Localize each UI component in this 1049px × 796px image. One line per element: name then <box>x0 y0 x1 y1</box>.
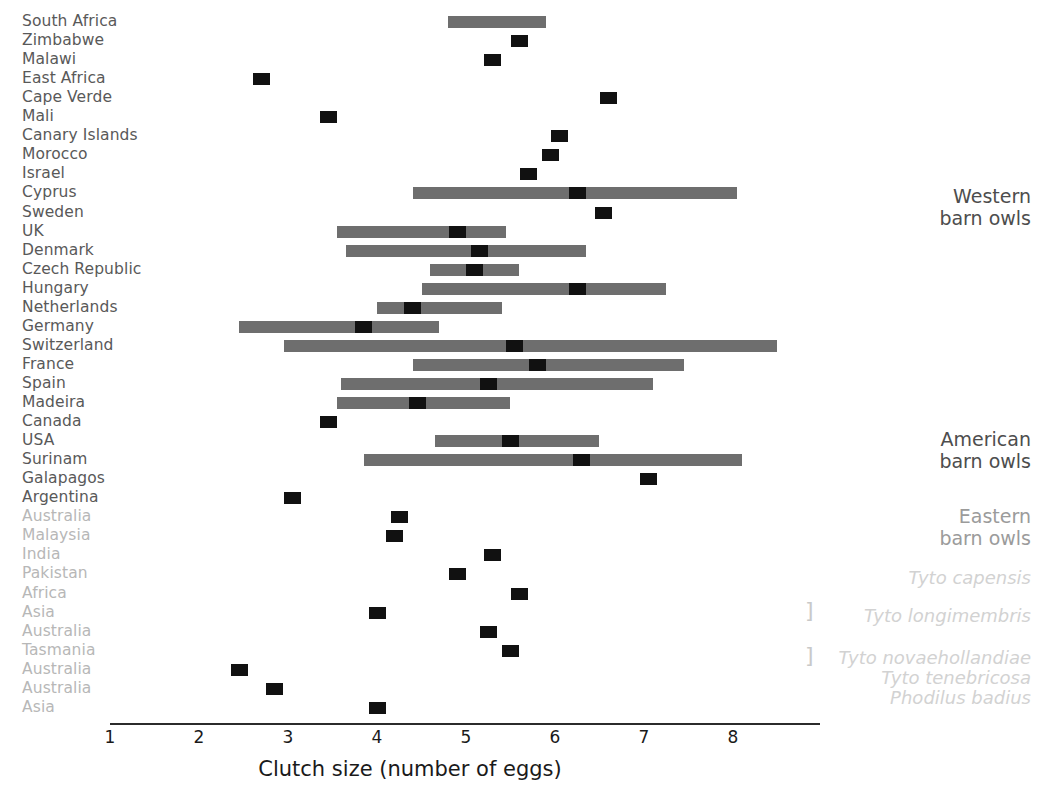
group-label: Americanbarn owls <box>939 428 1031 472</box>
mean-marker <box>484 549 501 561</box>
species-label: Tyto novaehollandiae <box>839 648 1031 668</box>
row-label: Switzerland <box>22 338 114 354</box>
mean-marker <box>511 588 528 600</box>
group-label: Easternbarn owls <box>939 505 1031 549</box>
x-tick-label: 4 <box>372 729 383 746</box>
row-label: Canary Islands <box>22 128 138 144</box>
row-label: India <box>22 547 61 563</box>
x-tick-label: 1 <box>105 729 116 746</box>
annotation-line: Tyto capensis <box>909 568 1031 588</box>
row-label: Mali <box>22 109 54 125</box>
row-label: Australia <box>22 624 91 640</box>
annotation-line: barn owls <box>939 527 1031 549</box>
species-label: Phodilus badius <box>890 688 1031 708</box>
row-label: USA <box>22 433 54 449</box>
mean-marker <box>320 111 337 123</box>
mean-marker <box>284 492 301 504</box>
mean-marker <box>506 340 523 352</box>
range-bar <box>448 16 546 28</box>
grouping-bracket-icon: ] <box>805 600 814 622</box>
row-label: France <box>22 357 74 373</box>
row-label: Sweden <box>22 205 84 221</box>
mean-marker <box>573 454 590 466</box>
clutch-size-chart: South AfricaZimbabweMalawiEast AfricaCap… <box>0 0 1049 796</box>
mean-marker <box>480 626 497 638</box>
row-label: Africa <box>22 586 67 602</box>
species-label: Tyto tenebricosa <box>881 668 1031 688</box>
row-label: Netherlands <box>22 300 118 316</box>
mean-marker <box>320 416 337 428</box>
range-bar <box>284 340 778 352</box>
mean-marker <box>355 321 372 333</box>
mean-marker <box>471 245 488 257</box>
mean-marker <box>600 92 617 104</box>
mean-marker <box>502 645 519 657</box>
annotation-line: Eastern <box>939 505 1031 527</box>
group-label: Westernbarn owls <box>939 185 1031 229</box>
x-axis-title: Clutch size (number of eggs) <box>0 757 820 781</box>
row-label: Asia <box>22 605 55 621</box>
row-label: Cape Verde <box>22 90 112 106</box>
row-label: Malaysia <box>22 528 91 544</box>
row-label: Canada <box>22 414 82 430</box>
range-bar <box>341 378 653 390</box>
mean-marker <box>595 207 612 219</box>
row-label: Morocco <box>22 147 88 163</box>
mean-marker <box>502 435 519 447</box>
mean-marker <box>640 473 657 485</box>
x-tick-label: 6 <box>550 729 561 746</box>
row-label: UK <box>22 224 44 240</box>
row-label: Cyprus <box>22 185 77 201</box>
mean-marker <box>449 568 466 580</box>
row-label: Hungary <box>22 281 89 297</box>
grouping-bracket-icon: ] <box>805 645 814 667</box>
row-label: Argentina <box>22 490 99 506</box>
x-tick-label: 8 <box>728 729 739 746</box>
annotation-line: barn owls <box>939 450 1031 472</box>
mean-marker <box>480 378 497 390</box>
mean-marker <box>409 397 426 409</box>
row-label: Tasmania <box>22 643 96 659</box>
annotation-line: Tyto longimembris <box>864 606 1031 626</box>
row-label: Madeira <box>22 395 85 411</box>
row-label: Australia <box>22 662 91 678</box>
row-label: Israel <box>22 166 65 182</box>
row-label: Australia <box>22 509 91 525</box>
mean-marker <box>404 302 421 314</box>
mean-marker <box>484 54 501 66</box>
mean-marker <box>391 511 408 523</box>
row-label: Pakistan <box>22 566 88 582</box>
row-label: Denmark <box>22 243 94 259</box>
mean-marker <box>449 226 466 238</box>
range-bar <box>422 283 667 295</box>
x-tick-label: 2 <box>194 729 205 746</box>
annotation-line: Tyto novaehollandiae <box>839 648 1031 668</box>
mean-marker <box>551 130 568 142</box>
annotation-line: Phodilus badius <box>890 688 1031 708</box>
mean-marker <box>569 283 586 295</box>
range-bar <box>346 245 586 257</box>
range-bar <box>413 359 684 371</box>
x-tick-label: 5 <box>461 729 472 746</box>
x-tick-label: 3 <box>283 729 294 746</box>
row-label: Malawi <box>22 52 76 68</box>
annotation-line: American <box>939 428 1031 450</box>
annotation-line: barn owls <box>939 207 1031 229</box>
mean-marker <box>466 264 483 276</box>
mean-marker <box>520 168 537 180</box>
species-label: Tyto longimembris <box>864 606 1031 626</box>
annotation-line: Tyto tenebricosa <box>881 668 1031 688</box>
row-label: Galapagos <box>22 471 105 487</box>
row-label: Spain <box>22 376 66 392</box>
species-label: Tyto capensis <box>909 568 1031 588</box>
row-label: Germany <box>22 319 94 335</box>
row-label: Australia <box>22 681 91 697</box>
mean-marker <box>266 683 283 695</box>
mean-marker <box>386 530 403 542</box>
range-bar <box>364 454 742 466</box>
mean-marker <box>569 187 586 199</box>
row-label: Surinam <box>22 452 87 468</box>
x-axis-line <box>110 723 820 725</box>
range-bar <box>337 226 506 238</box>
x-tick-label: 7 <box>639 729 650 746</box>
